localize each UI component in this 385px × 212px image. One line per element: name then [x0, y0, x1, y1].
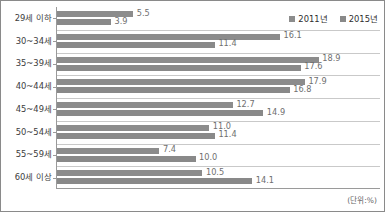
- bar-value-label: 11.4: [218, 39, 236, 47]
- bar-chart: 2011년 2015년 29세 이하5.53.930~34세16.111.435…: [0, 0, 385, 212]
- bar: [57, 110, 263, 116]
- bar-value-label: 12.7: [236, 100, 254, 108]
- bar-value-label: 17.9: [308, 77, 326, 85]
- category-label: 35~39세: [0, 59, 52, 67]
- plot-area: 29세 이하5.53.930~34세16.111.435~39세18.917.6…: [56, 7, 380, 189]
- bar-value-label: 17.6: [304, 62, 322, 70]
- bar: [57, 156, 196, 162]
- bar: [57, 42, 215, 48]
- category-label: 55~59세: [0, 150, 52, 158]
- bar: [57, 19, 111, 25]
- bar-value-label: 14.1: [256, 176, 274, 184]
- category-label: 30~34세: [0, 37, 52, 45]
- bar: [57, 34, 280, 40]
- bar-group: 55~59세7.410.0: [57, 144, 380, 167]
- bar-value-label: 14.9: [267, 108, 285, 116]
- category-label: 40~44세: [0, 82, 52, 90]
- bar-group: 50~54세11.011.4: [57, 121, 380, 144]
- bar: [57, 79, 305, 85]
- bar-group: 40~44세17.916.8: [57, 75, 380, 98]
- bar: [57, 65, 301, 71]
- unit-note: (단위:%): [347, 197, 377, 205]
- category-label: 50~54세: [0, 128, 52, 136]
- bar-value-label: 18.9: [322, 54, 340, 62]
- bar-group: 45~49세12.714.9: [57, 98, 380, 121]
- bar: [57, 125, 209, 131]
- category-label: 45~49세: [0, 105, 52, 113]
- bar-value-label: 10.0: [199, 153, 217, 161]
- bar-group: 60세 이상10.514.1: [57, 166, 380, 189]
- bar-value-label: 7.4: [163, 145, 176, 153]
- bar-value-label: 11.4: [218, 130, 236, 138]
- bar: [57, 148, 159, 154]
- bar-value-label: 3.9: [115, 17, 128, 25]
- bar-group: 30~34세16.111.4: [57, 30, 380, 53]
- bar: [57, 87, 290, 93]
- bar-group: 29세 이하5.53.9: [57, 7, 380, 30]
- bar-value-label: 16.1: [283, 31, 301, 39]
- bar: [57, 57, 319, 63]
- bar: [57, 170, 202, 176]
- category-label: 60세 이상: [0, 173, 52, 181]
- bar: [57, 102, 233, 108]
- bar-value-label: 10.5: [206, 168, 224, 176]
- bar-group: 35~39세18.917.6: [57, 53, 380, 76]
- category-label: 29세 이하: [0, 14, 52, 22]
- bar-value-label: 5.5: [137, 9, 150, 17]
- bar: [57, 133, 215, 139]
- bar-value-label: 16.8: [293, 85, 311, 93]
- bar: [57, 178, 252, 184]
